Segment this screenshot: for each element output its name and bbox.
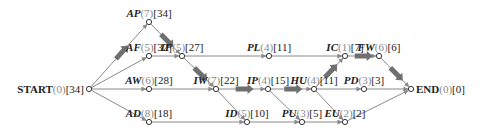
node-label-pu: PU(3)[5] (282, 107, 322, 120)
node-fw (376, 53, 381, 58)
node-label-id: ID(5)[10] (224, 107, 268, 120)
node-start (86, 86, 91, 91)
node-label-eu: EU(2)[2] (324, 107, 366, 120)
node-label-fw: FW(6)[6] (357, 41, 401, 54)
labels-layer: START(0)[34]AP(7)[34]AF(5)[32]AW(6)[28]A… (17, 7, 465, 120)
node-label-aw: AW(6)[28] (124, 74, 172, 87)
node-id (244, 119, 249, 124)
node-label-iw: IW(7)[22] (192, 74, 238, 87)
node-label-pd: PD(3)[3] (344, 74, 384, 87)
node-pl (266, 53, 271, 58)
node-label-ad: AD(8)[18] (125, 107, 172, 120)
node-aw (146, 86, 151, 91)
node-pu (299, 119, 304, 124)
node-af (146, 53, 151, 58)
node-iw (213, 86, 218, 91)
node-end (408, 86, 413, 91)
node-label-hu: HU(4)[11] (289, 74, 337, 87)
node-label-pl: PL(4)[11] (247, 41, 291, 54)
node-ip (265, 86, 270, 91)
node-label-if: IF(5)[27] (160, 41, 204, 54)
node-label-ap: AP(7)[34] (125, 7, 171, 20)
node-ap (146, 19, 151, 24)
node-pd (361, 86, 366, 91)
node-label-end: END(0)[0] (416, 83, 465, 96)
node-hu (311, 86, 316, 91)
node-ad (146, 119, 151, 124)
node-ic (342, 53, 347, 58)
node-label-start: START(0)[34] (17, 83, 84, 96)
node-label-ip: IP(4)[15] (246, 74, 289, 87)
node-eu (342, 119, 347, 124)
node-if (179, 53, 184, 58)
activity-network-diagram: START(0)[34]AP(7)[34]AF(5)[32]AW(6)[28]A… (0, 0, 483, 135)
